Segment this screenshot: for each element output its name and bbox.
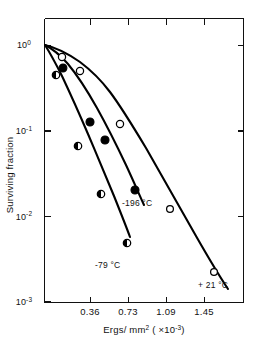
data-point [131,186,139,194]
x-tick-labels: 0.36 0.73 1.09 1.45 [80,306,213,317]
annotation-plus21: + 21 °C [198,280,228,290]
y-tick-labels: 100 10-1 10-2 10-3 [16,39,33,308]
y-tick-exp-2: -2 [26,210,32,217]
y-axis-title-text: Surviving fraction [4,137,15,213]
data-point [211,269,218,276]
figure-container: 100 10-1 10-2 10-3 0.36 0.73 1.09 1.45 E… [0,0,264,346]
data-point [101,136,109,144]
x-axis-ticks [91,297,205,303]
y-tick-exp-0: 0 [27,39,31,46]
x-tick-label-2: 1.09 [156,306,175,317]
x-tick-label-3: 1.45 [194,306,213,317]
x-axis-title-main: Ergs/ mm [103,324,145,335]
x-tick-label-1: 0.73 [118,306,137,317]
data-point [52,71,59,78]
y-axis-title: Surviving fraction [4,137,15,213]
x-axis-title-paren-open: ( ×10 [149,324,175,335]
markers-plus21 [58,53,217,275]
x-axis-title-paren-close: ) [181,324,184,335]
y-axis-ticks-right [238,46,244,217]
y-tick-label-3: 10-3 [16,296,33,308]
x-axis-title: Ergs/ mm2 ( ×10-3) [103,324,184,336]
y-axis-ticks [45,46,51,303]
annotation-minus79: -79 °C [95,260,120,270]
data-point [116,120,123,127]
data-point [123,239,130,246]
series-annotations: -196 °C -79 °C + 21 °C [95,198,228,290]
data-point [97,190,104,197]
y-tick-exp-1: -1 [26,125,32,132]
data-point [76,67,83,74]
x-tick-label-0: 0.36 [80,306,99,317]
annotation-minus196: -196 °C [122,198,152,208]
survival-curve-chart: 100 10-1 10-2 10-3 0.36 0.73 1.09 1.45 E… [0,0,264,346]
y-tick-label-2: 10-2 [16,210,33,222]
y-tick-exp-3: -3 [26,296,32,303]
y-tick-label-1: 10-1 [16,125,33,137]
x-axis-ticks-top [91,19,205,25]
data-point [167,206,174,213]
markers-minus196 [59,64,139,194]
plot-frame [45,19,244,303]
data-point [58,53,65,60]
svg-text:Ergs/ mm2 ( ×10-3): Ergs/ mm2 ( ×10-3) [103,324,184,336]
y-tick-label-0: 100 [17,39,31,51]
data-point [86,118,94,126]
data-point [59,64,67,72]
data-point [74,142,81,149]
series-curve-plus21 [45,45,228,289]
